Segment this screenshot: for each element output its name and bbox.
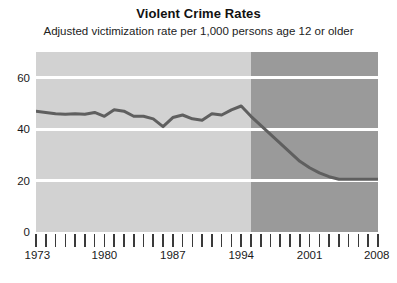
crime-rate-line: [36, 52, 378, 232]
x-tick-1990: [201, 234, 203, 247]
x-tick-1998: [279, 234, 281, 247]
x-tick-1987: [172, 234, 174, 247]
x-tick-1992: [221, 234, 223, 247]
x-tick-2000: [299, 234, 301, 247]
x-tick-1993: [231, 234, 233, 247]
x-tick-1988: [182, 234, 184, 247]
x-tick-1999: [289, 234, 291, 247]
plot-area: [36, 52, 378, 232]
x-tick-1983: [133, 234, 135, 247]
series-line-adjusted-victimization-rate: [36, 106, 378, 179]
x-tick-1986: [162, 234, 164, 247]
x-tick-2007: [367, 234, 369, 247]
x-tick-1976: [65, 234, 67, 247]
x-axis-ticks: [36, 234, 378, 247]
x-tick-1996: [260, 234, 262, 247]
violent-crime-rates-chart: Violent Crime Rates Adjusted victimizati…: [0, 0, 397, 283]
x-tick-1994: [240, 234, 242, 247]
x-tick-2003: [328, 234, 330, 247]
x-tick-1984: [143, 234, 145, 247]
x-axis-labels: 197319801987199420012008: [0, 249, 397, 265]
x-tick-1981: [113, 234, 115, 247]
x-tick-1978: [84, 234, 86, 247]
x-axis-label-2001: 2001: [297, 249, 323, 261]
x-tick-2006: [358, 234, 360, 247]
y-axis-label-0: 0: [0, 226, 30, 238]
x-axis-label-1980: 1980: [92, 249, 118, 261]
x-tick-1975: [55, 234, 57, 247]
x-tick-1973: [35, 234, 37, 247]
x-axis-label-1994: 1994: [228, 249, 254, 261]
chart-subtitle: Adjusted victimization rate per 1,000 pe…: [0, 25, 397, 37]
chart-title: Violent Crime Rates: [0, 6, 397, 21]
x-tick-1977: [74, 234, 76, 247]
x-tick-1997: [270, 234, 272, 247]
x-tick-1982: [123, 234, 125, 247]
x-tick-1989: [192, 234, 194, 247]
x-tick-1979: [94, 234, 96, 247]
x-tick-1985: [152, 234, 154, 247]
y-axis-label-40: 40: [0, 123, 30, 135]
y-axis-label-60: 60: [0, 72, 30, 84]
y-axis-label-20: 20: [0, 175, 30, 187]
x-tick-2001: [309, 234, 311, 247]
x-tick-1974: [45, 234, 47, 247]
x-tick-1991: [211, 234, 213, 247]
x-tick-2002: [319, 234, 321, 247]
x-tick-1980: [104, 234, 106, 247]
x-axis-label-1987: 1987: [160, 249, 186, 261]
x-tick-2005: [348, 234, 350, 247]
x-tick-2004: [338, 234, 340, 247]
x-tick-1995: [250, 234, 252, 247]
x-axis-label-2008: 2008: [364, 249, 390, 261]
x-tick-2008: [377, 234, 379, 247]
x-axis-label-1973: 1973: [24, 249, 50, 261]
